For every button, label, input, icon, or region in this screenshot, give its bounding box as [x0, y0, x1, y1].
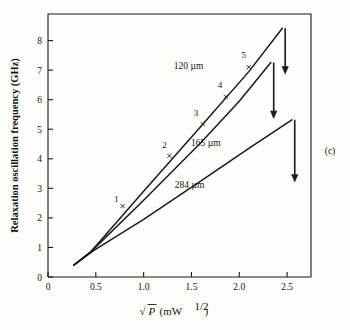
x-unit-open: (mW [160, 305, 183, 318]
x-tick-label: 0 [46, 282, 51, 292]
data-series: 120 µm [74, 28, 289, 265]
series-line [74, 62, 271, 265]
marker-cross [201, 122, 205, 126]
radical-sign: √ [140, 305, 147, 317]
x-tick-label: 1.0 [138, 282, 150, 292]
series-label: 120 µm [174, 61, 204, 71]
x-unit-close: ) [205, 305, 209, 318]
marker-cross [120, 204, 124, 208]
x-axis: 00.51.01.52.02.5 [46, 272, 294, 292]
marker-number: 2 [162, 140, 167, 150]
x-tick-label: 2.0 [233, 282, 245, 292]
y-tick-label: 3 [37, 184, 42, 194]
x-tick-label: 1.5 [186, 282, 198, 292]
marker-number: 4 [218, 80, 223, 90]
marker-cross [167, 154, 171, 158]
y-tick-label: 6 [37, 95, 42, 105]
relaxation-oscillation-chart: 00.51.01.52.02.5012345678Relaxation osci… [0, 0, 350, 330]
panel-label: (c) [325, 146, 336, 157]
y-tick-label: 0 [37, 273, 42, 283]
y-tick-label: 7 [37, 66, 42, 76]
x-axis-title: √P(mW1/2) [140, 300, 209, 318]
marker-number: 5 [242, 50, 247, 60]
drop-arrow-head [271, 111, 277, 119]
y-tick-label: 8 [37, 36, 42, 46]
y-tick-label: 5 [37, 125, 42, 135]
plot-frame [48, 14, 311, 277]
series-label: 284 µm [175, 180, 205, 190]
y-axis: 012345678 [37, 36, 53, 282]
marker-number: 1 [114, 194, 119, 204]
figure-container: 00.51.01.52.02.5012345678Relaxation osci… [0, 0, 350, 330]
data-series: 284 µm [74, 120, 298, 265]
x-tick-label: 2.5 [281, 282, 293, 292]
x-tick-label: 0.5 [90, 282, 102, 292]
marker-cross [247, 65, 251, 69]
drop-arrow-head [292, 174, 298, 182]
data-series: 165 µm [74, 62, 277, 265]
y-tick-label: 2 [37, 213, 42, 223]
marker-number: 3 [194, 108, 199, 118]
y-axis-title: Relaxation oscillation frequency (GHz) [9, 58, 21, 233]
drop-arrow-head [282, 67, 288, 75]
series-line [74, 120, 292, 265]
series-label: 165 µm [191, 138, 221, 148]
y-tick-label: 1 [37, 243, 42, 253]
y-tick-label: 4 [37, 154, 42, 164]
x-variable: P [148, 305, 156, 317]
